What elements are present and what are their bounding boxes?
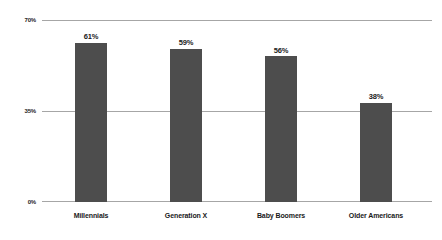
bar-millennials[interactable] — [75, 43, 107, 202]
gridline-70 — [42, 20, 432, 21]
category-label-millennials: Millennials — [36, 212, 146, 219]
bar-value-baby-boomers: 56% — [251, 47, 311, 55]
y-axis-tick-label-0: 0% — [6, 199, 36, 205]
y-axis-tick-label-70: 70% — [6, 17, 36, 23]
y-axis-tick-label-35: 35% — [6, 108, 36, 114]
bar-value-older-americans: 38% — [346, 93, 406, 101]
bar-baby-boomers[interactable] — [265, 56, 297, 202]
bar-value-generation-x: 59% — [156, 39, 216, 47]
bar-generation-x[interactable] — [170, 49, 202, 202]
category-label-baby-boomers: Baby Boomers — [226, 212, 336, 219]
category-label-older-americans: Older Americans — [321, 212, 431, 219]
bar-value-millennials: 61% — [61, 33, 121, 41]
plot-area — [42, 20, 432, 202]
bar-older-americans[interactable] — [360, 103, 392, 202]
category-label-generation-x: Generation X — [131, 212, 241, 219]
bar-chart: 70% 35% 0% 61% 59% 56% 38% Millennials G… — [0, 0, 442, 240]
